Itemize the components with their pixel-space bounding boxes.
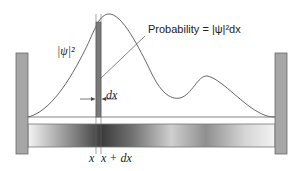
probability-bar [28, 124, 275, 147]
psi-squared-label: |ψ|² [57, 44, 75, 59]
dx-label: dx [106, 88, 117, 103]
x-label: x [89, 151, 94, 166]
x-plus-dx-label: x + dx [101, 151, 132, 166]
dx-arrowhead-left-icon [91, 97, 95, 101]
left-wall [16, 53, 28, 154]
probability-leader-line [100, 36, 145, 79]
probability-label: Probability = |ψ|²dx [148, 23, 241, 35]
right-wall [275, 53, 287, 154]
dx-strip [96, 22, 101, 117]
